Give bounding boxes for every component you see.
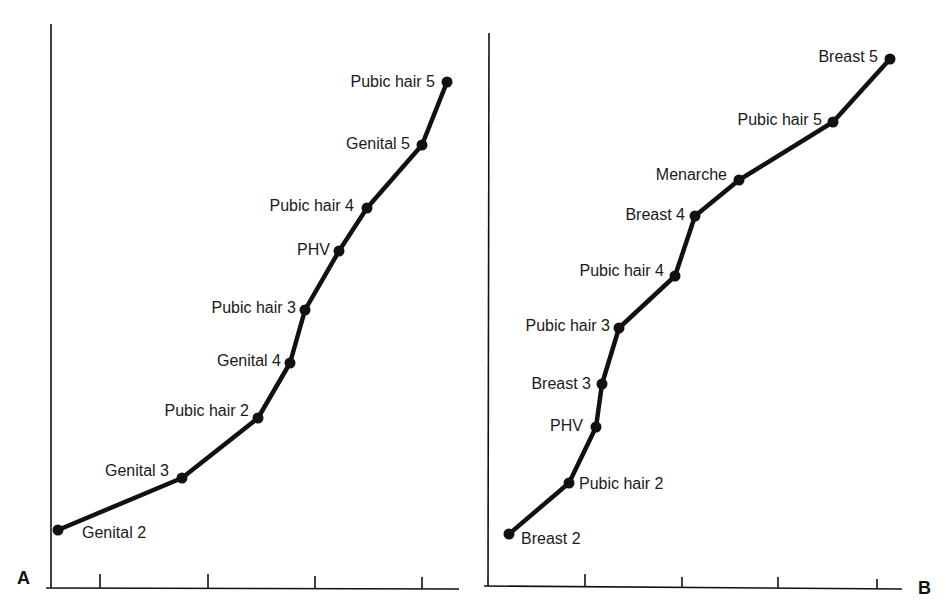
stage-label: PHV (550, 417, 583, 434)
stage-label: Breast 2 (521, 530, 581, 547)
stage-label: Pubic hair 3 (526, 317, 611, 334)
panel-b-letter: B (918, 578, 931, 598)
stage-label: Genital 2 (82, 524, 146, 541)
stage-point (614, 323, 625, 334)
stage-label: Pubic hair 5 (351, 73, 436, 90)
stage-point (362, 203, 373, 214)
stage-point (690, 211, 701, 222)
stage-label: Pubic hair 2 (579, 475, 664, 492)
stage-point (334, 246, 345, 257)
stage-point (504, 529, 515, 540)
stage-line (509, 59, 890, 534)
stage-point (177, 473, 188, 484)
stage-label: Menarche (656, 166, 727, 183)
stage-label: Pubic hair 4 (580, 262, 665, 279)
stage-point (597, 379, 608, 390)
panel-a-letter: A (17, 568, 30, 588)
stage-label: Pubic hair 4 (270, 197, 355, 214)
stage-label: Pubic hair 2 (165, 402, 250, 419)
stage-point (734, 175, 745, 186)
stage-point (564, 478, 575, 489)
stage-point (253, 413, 264, 424)
stage-point (285, 358, 296, 369)
stage-point (591, 422, 602, 433)
stage-point (885, 54, 896, 65)
stage-label: Breast 5 (818, 48, 878, 65)
stage-point (53, 525, 64, 536)
stage-label: Pubic hair 3 (212, 299, 297, 316)
stage-point (670, 271, 681, 282)
stage-point (828, 117, 839, 128)
stage-label: Breast 4 (625, 206, 685, 223)
stage-point (300, 305, 311, 316)
panel-b-series: Breast 2Pubic hair 2PHVBreast 3Pubic hai… (504, 48, 896, 547)
stage-label: Genital 3 (105, 462, 169, 479)
stage-label: Genital 4 (217, 352, 281, 369)
puberty-sequence-chart: A Genital 2Genital 3Pubic hair 2Genital … (0, 0, 951, 604)
panel-a-series: Genital 2Genital 3Pubic hair 2Genital 4P… (53, 73, 453, 541)
stage-point (417, 140, 428, 151)
stage-label: Breast 3 (531, 375, 591, 392)
stage-point (442, 77, 453, 88)
stage-label: Genital 5 (346, 135, 410, 152)
stage-label: Pubic hair 5 (738, 111, 823, 128)
stage-label: PHV (297, 241, 330, 258)
